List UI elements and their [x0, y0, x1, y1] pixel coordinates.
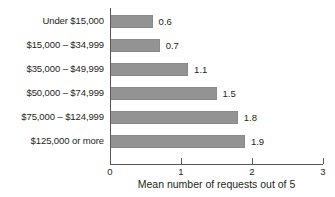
category-label-50000-74999: $50,000 – $74,999: [0, 87, 104, 99]
x-tick-label-1: 1: [178, 166, 183, 178]
x-tick-label-3: 3: [320, 166, 325, 178]
bar-value-label: 1.8: [244, 111, 257, 124]
category-label-15000-34999: $15,000 – $34,999: [0, 39, 104, 51]
x-tick-mark-0: [110, 158, 111, 164]
x-axis-title: Mean number of requests out of 5: [110, 178, 323, 191]
bar-15000-34999: [110, 39, 160, 52]
category-label-125000-or-more: $125,000 or more: [0, 135, 104, 147]
bar-value-label: 0.7: [166, 39, 179, 52]
bar-value-label: 1.5: [223, 87, 236, 100]
category-label-35000-49999: $35,000 – $49,999: [0, 63, 104, 75]
bars-area: 0.6 0.7 1.1 1.5 1.8 1.9: [110, 0, 335, 165]
bar-value-label: 1.1: [194, 63, 207, 76]
bar-chart: Under $15,000 $15,000 – $34,999 $35,000 …: [0, 0, 335, 197]
bar-75000-124999: [110, 111, 238, 124]
category-axis-labels: Under $15,000 $15,000 – $34,999 $35,000 …: [0, 0, 104, 165]
bar-value-label: 1.9: [251, 135, 264, 148]
category-label-75000-124999: $75,000 – $124,999: [0, 111, 104, 123]
x-tick-mark-3: [323, 158, 324, 164]
bar-under-15000: [110, 15, 153, 28]
x-tick-mark-1: [181, 158, 182, 164]
bar-50000-74999: [110, 87, 217, 100]
category-label-under-15000: Under $15,000: [0, 15, 104, 27]
x-tick-mark-2: [252, 158, 253, 164]
bar-125000-or-more: [110, 135, 245, 148]
bar-35000-49999: [110, 63, 188, 76]
y-axis-line: [110, 8, 111, 165]
x-axis-line: [110, 164, 323, 165]
x-tick-label-2: 2: [249, 166, 254, 178]
bar-value-label: 0.6: [159, 15, 172, 28]
x-tick-label-0: 0: [107, 166, 112, 178]
